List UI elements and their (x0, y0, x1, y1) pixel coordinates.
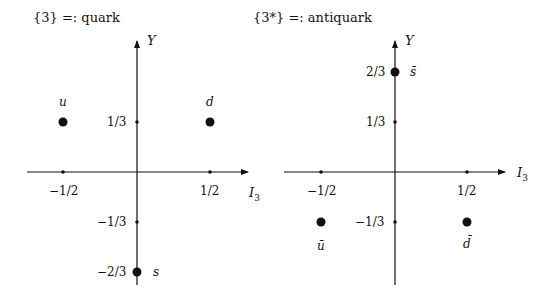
tick-dot (61, 170, 65, 174)
quark-y-tick-neg-2-3: −2/3 (97, 266, 126, 278)
s-bar-label: s̄ (410, 66, 416, 78)
s-bar-point (391, 68, 400, 77)
antiquark-y-axis-label: Y (405, 34, 414, 47)
quark-y-tick-1-3: 1/3 (107, 116, 126, 128)
d-bar-label: d̄ (463, 238, 471, 250)
tick-dot (208, 170, 212, 174)
u-quark-point (59, 118, 68, 127)
tick-dot (465, 170, 469, 174)
u-quark-label: u (59, 96, 67, 108)
tick-dot (393, 120, 397, 124)
quark-x-tick-neg-half: −1/2 (49, 185, 78, 197)
d-quark-label: d (206, 96, 214, 108)
tick-dot (135, 120, 139, 124)
tick-dot (135, 220, 139, 224)
d-bar-point (463, 218, 472, 227)
antiquark-x-tick-neg-half: −1/2 (307, 185, 336, 197)
antiquark-y-tick-neg-1-3: −1/3 (355, 216, 384, 228)
quark-y-axis-label: Y (147, 34, 156, 47)
s-quark-label: s (153, 266, 159, 278)
tick-dot (319, 170, 323, 174)
quark-x-tick-half: 1/2 (200, 185, 219, 197)
u-bar-label: ū (317, 240, 325, 252)
i3-label-sub: 3 (254, 193, 260, 203)
weight-diagrams (0, 0, 553, 300)
s-quark-point (133, 268, 142, 277)
antiquark-i3-axis-label: I3 (517, 166, 528, 183)
antiquark-x-tick-half: 1/2 (457, 185, 476, 197)
antiquark-y-tick-1-3: 1/3 (366, 116, 385, 128)
quark-y-tick-neg-1-3: −1/3 (97, 216, 126, 228)
antiquark-y-tick-2-3: 2/3 (366, 66, 385, 78)
tick-dot (393, 220, 397, 224)
quark-i3-axis-label: I3 (249, 186, 260, 203)
d-quark-point (206, 118, 215, 127)
u-bar-point (317, 218, 326, 227)
quark-diagram (27, 41, 248, 285)
i3-label-sub: 3 (522, 173, 528, 183)
